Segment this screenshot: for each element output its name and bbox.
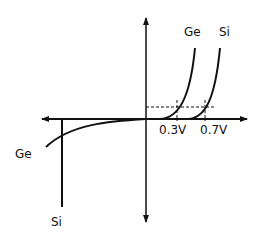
si-knee-label: 0.7V [200, 123, 228, 137]
si-reverse-curve [62, 119, 146, 207]
si-forward-label: Si [219, 25, 230, 39]
si-forward-curve [170, 48, 220, 119]
ge-knee-label: 0.3V [159, 123, 187, 137]
ge-reverse-label: Ge [15, 147, 32, 161]
ge-forward-label: Ge [184, 25, 201, 39]
diode-characteristic-diagram: Ge Si 0.3V 0.7V Ge Si [0, 0, 259, 241]
si-reverse-label: Si [51, 215, 62, 229]
ge-forward-curve [146, 48, 195, 119]
